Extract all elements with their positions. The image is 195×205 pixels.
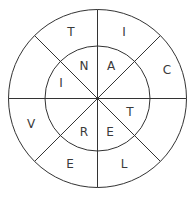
center-dot <box>96 97 99 100</box>
outer-letter: E <box>66 157 74 171</box>
word-wheel: T I C V E L N A I T R E <box>0 0 195 205</box>
inner-letter: R <box>80 125 88 139</box>
outer-letter: C <box>163 63 171 77</box>
outer-letter: T <box>66 25 75 39</box>
outer-letter: I <box>122 25 126 39</box>
inner-letter: N <box>80 59 89 73</box>
inner-letter: T <box>125 105 134 119</box>
inner-letter: I <box>59 76 63 90</box>
inner-letter: E <box>106 125 114 139</box>
outer-letter: L <box>121 157 128 171</box>
outer-letter: V <box>27 117 36 131</box>
inner-letter: A <box>107 59 116 73</box>
